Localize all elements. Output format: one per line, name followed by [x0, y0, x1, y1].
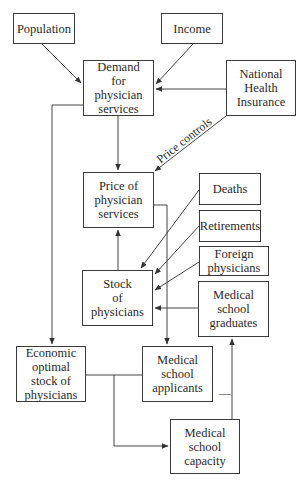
node-deaths: Deaths	[199, 173, 261, 205]
node-label: Deaths	[213, 182, 248, 196]
node-label: Population	[17, 22, 71, 36]
node-price: Price of physician services	[83, 172, 154, 228]
node-demand: Demand for physician services	[83, 60, 154, 116]
node-label: Price of physician services	[95, 179, 143, 221]
node-retirements: Retirements	[199, 210, 261, 242]
node-label: Economic optimal stock of physicians	[25, 346, 78, 402]
node-label: National Health Insurance	[237, 67, 286, 109]
node-economic: Economic optimal stock of physicians	[16, 346, 86, 402]
node-population: Population	[13, 13, 75, 44]
node-label: Medical school graduates	[210, 288, 258, 330]
edge-population-demand	[42, 44, 81, 83]
node-income: Income	[161, 13, 223, 44]
node-stock: Stock of physicians	[82, 270, 153, 326]
node-label: Stock of physicians	[91, 277, 144, 319]
node-graduates: Medical school graduates	[198, 281, 269, 337]
edge-retirements-stock	[155, 226, 199, 274]
node-label: Demand for physician services	[95, 60, 143, 116]
minus-sign: —	[219, 386, 231, 401]
node-label: Medical school capacity	[184, 426, 226, 468]
node-label: Income	[173, 22, 210, 36]
node-label: Retirements	[200, 219, 260, 233]
edge-price-applicants	[154, 205, 167, 344]
node-label: Foreign physicians	[208, 247, 261, 275]
node-capacity: Medical school capacity	[170, 419, 240, 474]
node-nhi: National Health Insurance	[226, 60, 296, 116]
node-foreign: Foreign physicians	[199, 246, 269, 276]
node-label: Medical school applicants	[152, 353, 203, 395]
node-applicants: Medical school applicants	[142, 346, 213, 402]
edge-demand-economic	[52, 105, 83, 344]
edge-income-demand	[156, 44, 193, 84]
